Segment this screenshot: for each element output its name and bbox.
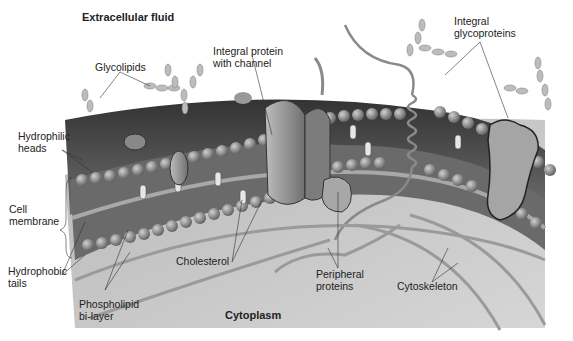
integral-protein-channel-label: Integral protein with channel [213, 45, 283, 69]
phospholipid-bilayer-label: Phospholipid bi-layer [79, 298, 139, 322]
surface-protein [124, 134, 146, 150]
cytoplasm-label: Cytoplasm [225, 309, 281, 321]
extracellular-fluid-label: Extracellular fluid [82, 11, 174, 23]
peripheral-proteins-label: Peripheral proteins [316, 268, 364, 292]
cell-membrane-label: Cell membrane [9, 203, 59, 227]
hydrophilic-heads-label: Hydrophilic heads [18, 130, 70, 154]
channel-protein [265, 100, 330, 204]
glycolipids-label: Glycolipids [95, 61, 146, 73]
cell-membrane-diagram: Extracellular fluid Glycolipids Integral… [0, 0, 573, 341]
small-integral-protein [170, 151, 188, 185]
cholesterol-label: Cholesterol [176, 255, 229, 267]
membrane-illustration [0, 0, 573, 341]
integral-glycoproteins-label: Integral glycoproteins [454, 15, 516, 39]
cytoskeleton-label: Cytoskeleton [397, 280, 458, 292]
peripheral-protein [322, 177, 351, 212]
hydrophobic-tails-label: Hydrophobic tails [8, 265, 67, 289]
